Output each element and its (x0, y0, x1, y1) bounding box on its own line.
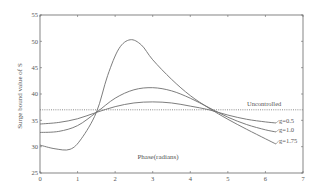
y-tick-label: 45 (32, 64, 39, 71)
y-tick-label: 40 (32, 90, 39, 97)
x-tick-label: 4 (189, 175, 193, 182)
y-tick-label: 50 (32, 38, 39, 45)
x-tick-label: 1 (76, 175, 79, 182)
chart-svg: 0123456725303540455055 Surge bound value… (0, 0, 313, 185)
g05-label: g=0.5 (279, 117, 294, 124)
plot-frame (40, 15, 303, 173)
y-axis-label: Surge bound value of S (16, 63, 24, 129)
y-tick-label: 25 (32, 169, 39, 176)
x-tick-label: 5 (226, 175, 229, 182)
g175-label: g=1.75 (279, 137, 297, 144)
series-g-1-75 (40, 40, 276, 150)
y-tick-label: 55 (32, 11, 39, 18)
x-tick-label: 7 (301, 175, 305, 182)
x-axis-label: Phase(radians) (137, 153, 179, 161)
y-tick-label: 35 (32, 117, 39, 124)
series-g-0-5 (40, 102, 276, 124)
x-tick-label: 3 (151, 175, 154, 182)
series-group (40, 40, 303, 150)
x-tick-label: 6 (264, 175, 268, 182)
x-tick-label: 2 (114, 175, 117, 182)
g10-label: g=1.0 (279, 126, 294, 133)
y-tick-label: 30 (32, 143, 39, 150)
x-tick-label: 0 (38, 175, 41, 182)
uncontrolled-label: Uncontrolled (247, 100, 282, 107)
surge-bound-chart: 0123456725303540455055 Surge bound value… (0, 0, 313, 185)
